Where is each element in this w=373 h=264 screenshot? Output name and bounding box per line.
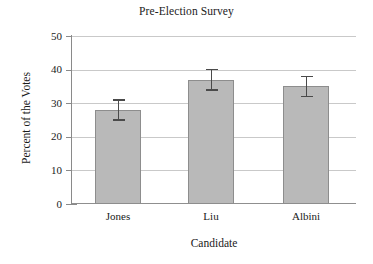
- plot-area: [72, 36, 356, 204]
- x-tick-label-jones: Jones: [78, 210, 158, 222]
- error-bar-line-jones: [118, 100, 120, 120]
- error-bar-cap-upper-liu: [206, 69, 218, 71]
- error-bar-cap-upper-jones: [113, 99, 125, 101]
- x-tick-label-liu: Liu: [171, 210, 251, 222]
- y-tick-label-0: 0: [32, 199, 62, 210]
- bar-albini[interactable]: [283, 86, 329, 204]
- y-axis-title: Percent of the Votes: [20, 48, 32, 188]
- error-bar-cap-upper-albini: [301, 76, 313, 78]
- y-tick-mark-0: [66, 204, 77, 205]
- x-tick-label-albini: Albini: [266, 210, 346, 222]
- x-axis-title: Candidate: [72, 237, 356, 249]
- error-bar-cap-lower-jones: [113, 119, 125, 121]
- y-tick-label-50: 50: [32, 31, 62, 42]
- bar-liu[interactable]: [188, 80, 234, 204]
- error-bar-cap-lower-albini: [301, 96, 313, 98]
- error-bar-line-liu: [211, 70, 213, 90]
- error-bar-line-albini: [306, 76, 308, 96]
- y-tick-label-30: 30: [32, 98, 62, 109]
- gridline-50: [72, 36, 356, 37]
- y-tick-label-10: 10: [32, 165, 62, 176]
- bar-jones[interactable]: [95, 110, 141, 204]
- y-tick-label-40: 40: [32, 64, 62, 75]
- chart-title: Pre-Election Survey: [0, 5, 373, 17]
- error-bar-cap-lower-liu: [206, 89, 218, 91]
- bar-chart: Pre-Election Survey Percent of the Votes…: [0, 0, 373, 264]
- y-tick-label-20: 20: [32, 131, 62, 142]
